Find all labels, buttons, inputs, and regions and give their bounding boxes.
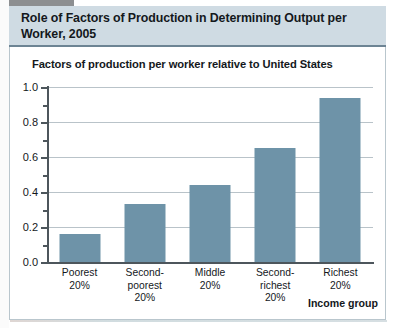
x-axis-tick-label: Richest20% <box>308 267 373 292</box>
x-axis-tick-label: Second-richest20% <box>243 267 308 305</box>
x-axis-line <box>46 262 374 264</box>
x-axis-tick-label-name: Poorest <box>62 267 98 278</box>
y-axis-minor-tick <box>43 105 48 107</box>
bar-slot <box>112 87 177 262</box>
x-axis-tick-label-share: 20% <box>47 280 112 293</box>
x-axis-tick-label-share: 20% <box>308 280 373 293</box>
y-axis-minor-tick <box>43 210 48 212</box>
bar-slot <box>243 87 308 262</box>
x-axis-tick-label-share: 20% <box>243 292 308 305</box>
bar <box>189 185 230 262</box>
panel-bottom-shadow <box>10 320 387 322</box>
page-left-gutter <box>0 0 9 328</box>
x-axis-tick-label: Middle20% <box>177 267 242 292</box>
y-axis-tick <box>41 87 48 89</box>
y-axis-tick-label: 0.6 <box>12 151 38 163</box>
figure-title-band: Role of Factors of Production in Determi… <box>9 6 386 47</box>
bar <box>124 204 165 262</box>
y-axis-minor-tick <box>43 245 48 247</box>
y-axis-minor-tick <box>43 140 48 142</box>
x-axis-title: Income group <box>308 297 378 309</box>
figure-title: Role of Factors of Production in Determi… <box>21 11 373 42</box>
x-axis-tick-label-name: Second-richest <box>256 267 294 291</box>
bar <box>320 98 361 263</box>
y-axis-tick-label: 0.4 <box>12 186 38 198</box>
y-axis-tick-label: 1.0 <box>12 81 38 93</box>
y-axis-tick <box>41 262 48 264</box>
bar-series <box>47 87 373 262</box>
y-axis-tick <box>41 122 48 124</box>
bar <box>255 148 296 262</box>
y-axis-tick <box>41 227 48 229</box>
x-axis-tick-label-name: Middle <box>195 267 225 278</box>
y-axis-caption: Factors of production per worker relativ… <box>32 58 333 70</box>
y-axis-tick-label: 0.2 <box>12 221 38 233</box>
y-axis-tick <box>41 157 48 159</box>
y-axis-tick-label: 0.8 <box>12 116 38 128</box>
bar-slot <box>177 87 242 262</box>
chart-figure: Role of Factors of Production in Determi… <box>0 0 398 328</box>
y-axis-minor-tick <box>43 175 48 177</box>
x-axis-tick-label-name: Richest <box>323 267 357 278</box>
bar-slot <box>47 87 112 262</box>
x-axis-tick-label-share: 20% <box>177 280 242 293</box>
x-axis-tick-label: Second-poorest20% <box>112 267 177 305</box>
y-axis-tick <box>41 192 48 194</box>
bar <box>59 234 100 262</box>
x-axis-tick-label-share: 20% <box>112 292 177 305</box>
x-axis-tick-label: Poorest20% <box>47 267 112 292</box>
y-axis-tick-label: 0.0 <box>12 256 38 268</box>
bar-slot <box>308 87 373 262</box>
x-axis-tick-label-name: Second-poorest <box>126 267 164 291</box>
